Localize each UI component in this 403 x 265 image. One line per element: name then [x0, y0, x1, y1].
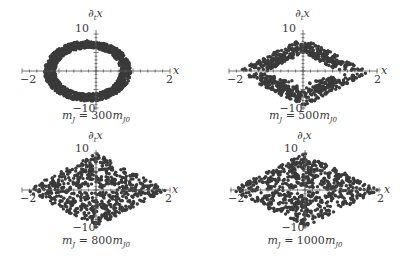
panel-mj-800: −22x10−10∂txmJ = 800mJ0 [20, 129, 179, 249]
y-tick-label-min: −10 [281, 221, 304, 234]
x-tick-label-min: −2 [227, 73, 243, 86]
panel-caption: mJ = 500mJ0 [269, 109, 338, 124]
y-axis-label: ∂tx [88, 7, 104, 22]
panel-mj-500: −22x10−10∂txmJ = 500mJ0 [227, 7, 388, 124]
axes [22, 150, 170, 229]
axes [22, 30, 170, 110]
panel-caption: mJ = 1000mJ0 [267, 234, 343, 249]
x-tick-label-max: 2 [165, 192, 172, 205]
x-axis-label: x [384, 183, 391, 196]
y-tick-label-min: −10 [72, 221, 95, 234]
x-tick-label-max: 2 [377, 192, 384, 205]
y-tick-label-max: 10 [282, 22, 296, 35]
panel-mj-300: −22x10−10∂txmJ = 300mJ0 [20, 7, 180, 124]
x-axis-label: x [173, 64, 180, 77]
x-tick-label-max: 2 [374, 73, 381, 86]
scatter-figure: −22x10−10∂txmJ = 300mJ0 −22x10−10∂txmJ =… [0, 0, 403, 265]
y-axis-label: ∂tx [88, 129, 104, 144]
x-tick-label-max: 2 [166, 73, 173, 86]
y-tick-label-max: 10 [75, 142, 89, 155]
y-axis-label: ∂tx [295, 7, 311, 22]
panel-caption: mJ = 800mJ0 [62, 234, 131, 249]
panel-caption: mJ = 300mJ0 [62, 109, 131, 124]
y-tick-label-max: 10 [284, 142, 298, 155]
x-tick-label-min: −2 [20, 73, 36, 86]
y-axis-label: ∂tx [297, 129, 313, 144]
x-axis-label: x [381, 64, 388, 77]
y-tick-label-max: 10 [75, 22, 89, 35]
x-tick-label-min: −2 [228, 192, 244, 205]
x-axis-label: x [172, 183, 179, 196]
panel-mj-1000: −22x10−10∂txmJ = 1000mJ0 [228, 129, 391, 249]
x-tick-label-min: −2 [20, 192, 36, 205]
